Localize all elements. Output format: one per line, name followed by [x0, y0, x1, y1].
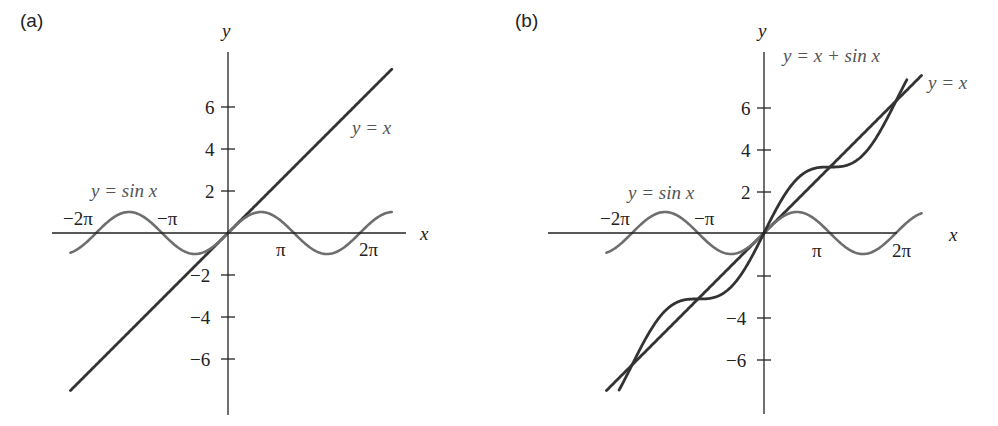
y-tick-label: 6 — [741, 98, 751, 119]
x-tick-label: 2π — [359, 239, 379, 260]
sum-label: y = x + sin x — [781, 45, 880, 66]
y-tick-label: −4 — [726, 308, 747, 329]
y-tick-label: −6 — [726, 350, 746, 371]
y-tick-label: 6 — [205, 97, 215, 118]
line-label: y = x — [926, 72, 968, 93]
panel-b: (b) 6 4 2 −4 −6 −2π −π π 2π x y y = x + … — [499, 0, 998, 426]
x-tick-label: −π — [694, 208, 715, 229]
panel-a: (a) 6 4 2 −2 −4 −6 −2π −π π 2π x y y = x… — [0, 0, 499, 426]
y-tick-label: 4 — [205, 139, 215, 160]
y-tick-label: 2 — [205, 181, 215, 202]
x-tick-label: −2π — [63, 208, 93, 229]
x-axis-label: x — [419, 223, 429, 244]
y-tick-label: −2 — [190, 265, 210, 286]
line-label: y = x — [350, 117, 392, 138]
x-tick-label: π — [276, 239, 286, 260]
chart-b: 6 4 2 −4 −6 −2π −π π 2π x y y = x + sin … — [499, 0, 998, 426]
chart-a: 6 4 2 −2 −4 −6 −2π −π π 2π x y y = x y =… — [0, 0, 499, 426]
y-tick-label: −4 — [190, 307, 211, 328]
sine-label: y = sin x — [89, 180, 158, 201]
x-tick-label: π — [812, 240, 822, 261]
y-axis-label: y — [756, 20, 767, 41]
x-axis-label: x — [948, 224, 958, 245]
y-axis-label: y — [220, 20, 231, 41]
x-tick-label: −2π — [600, 208, 630, 229]
sine-label: y = sin x — [626, 182, 695, 203]
curve-y-x-sin-x — [619, 80, 907, 390]
y-tick-label: −6 — [190, 349, 210, 370]
y-tick-label: 4 — [741, 140, 751, 161]
x-tick-label: 2π — [892, 240, 912, 261]
plot-area-a — [71, 69, 392, 390]
x-tick-label: −π — [157, 208, 178, 229]
y-tick-label: 2 — [741, 182, 751, 203]
